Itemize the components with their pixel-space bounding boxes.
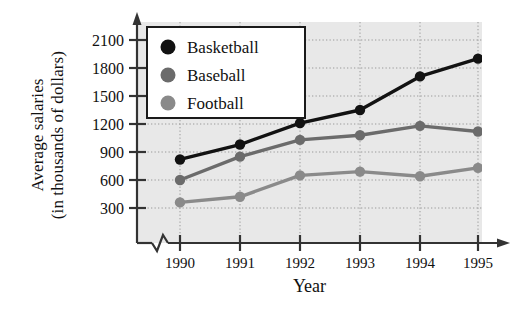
legend-label-baseball: Baseball	[187, 66, 246, 85]
data-point-baseball	[355, 130, 365, 140]
x-axis-tick-label: 1990	[165, 255, 195, 271]
x-axis-tick-label: 1991	[225, 255, 255, 271]
data-point-basketball	[235, 139, 245, 149]
data-point-football	[175, 197, 185, 207]
data-point-football	[355, 166, 365, 176]
data-point-football	[235, 192, 245, 202]
data-point-basketball	[415, 71, 425, 81]
x-axis-tick-label: 1994	[405, 255, 436, 271]
data-point-baseball	[473, 126, 483, 136]
data-point-basketball	[295, 118, 305, 128]
x-axis-tick-label: 1992	[285, 255, 315, 271]
data-point-basketball	[175, 154, 185, 164]
y-axis-arrow	[133, 12, 142, 25]
data-point-baseball	[415, 121, 425, 131]
y-axis-tick-label: 300	[100, 200, 124, 217]
chart-figure: (in thousands of dollars) Average salari…	[0, 0, 522, 316]
y-axis-tick-label: 1500	[92, 88, 124, 105]
data-point-football	[295, 170, 305, 180]
data-point-basketball	[473, 53, 483, 63]
x-axis-tick-label: 1993	[345, 255, 375, 271]
legend-marker-football	[161, 96, 176, 111]
legend-label-football: Football	[187, 94, 244, 113]
data-point-baseball	[175, 175, 185, 185]
data-point-basketball	[355, 105, 365, 115]
legend-marker-baseball	[161, 68, 176, 83]
chart-legend: BasketballBaseballFootball	[147, 27, 305, 118]
y-axis-tick-label: 600	[100, 172, 124, 189]
x-axis-arrow	[497, 239, 510, 248]
data-point-baseball	[295, 135, 305, 145]
y-axis-tick-label: 1800	[92, 60, 124, 77]
data-point-football	[415, 171, 425, 181]
y-axis-tick-label: 2100	[92, 32, 124, 49]
plot-area: 2100180015001200900600300 19901991199219…	[0, 0, 522, 316]
legend-label-basketball: Basketball	[187, 38, 259, 57]
x-axis-tick-label: 1995	[463, 255, 493, 271]
x-axis-title: Year	[137, 276, 482, 297]
y-axis-tick-label: 900	[100, 144, 124, 161]
data-point-football	[473, 163, 483, 173]
data-point-baseball	[235, 151, 245, 161]
y-axis-tick-label: 1200	[92, 116, 124, 133]
legend-marker-basketball	[161, 40, 176, 55]
